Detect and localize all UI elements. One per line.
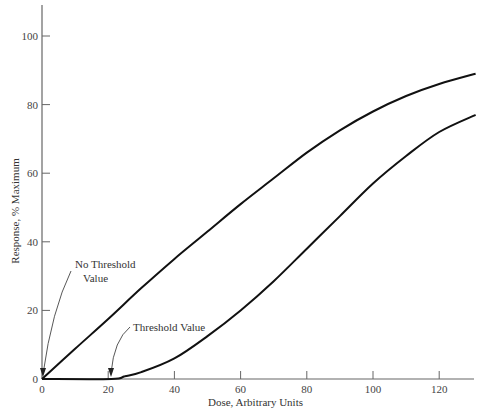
- x-ticks: 020406080100120: [39, 371, 448, 395]
- y-tick-label: 20: [27, 304, 39, 316]
- x-tick-label: 120: [431, 383, 448, 395]
- annotation-arrow-line: [43, 271, 71, 374]
- y-axis-title: Response, % Maximum: [9, 158, 21, 264]
- x-tick-label: 20: [103, 383, 115, 395]
- x-tick-label: 100: [365, 383, 382, 395]
- annotation-no-threshold-line2: Value: [83, 272, 108, 284]
- y-tick-label: 100: [22, 30, 39, 42]
- x-tick-label: 0: [39, 383, 45, 395]
- y-tick-label: 60: [27, 167, 39, 179]
- y-ticks: 020406080100: [22, 30, 51, 385]
- x-tick-label: 40: [169, 383, 181, 395]
- threshold-curve: [42, 115, 476, 379]
- dose-response-chart: 020406080100 020406080100120 No Threshol…: [0, 0, 484, 419]
- y-tick-label: 40: [27, 236, 39, 248]
- y-tick-label: 0: [33, 373, 39, 385]
- y-tick-label: 80: [27, 99, 39, 111]
- annotation-threshold-label: Threshold Value: [133, 321, 205, 333]
- x-axis-title: Dose, Arbitrary Units: [208, 396, 303, 408]
- annotation-arrow-line: [111, 327, 130, 373]
- arrowhead-icon: [108, 368, 114, 377]
- x-tick-label: 60: [235, 383, 247, 395]
- annotation-no-threshold-line1: No Threshold: [75, 258, 136, 270]
- x-tick-label: 80: [301, 383, 313, 395]
- no-threshold-curve: [42, 74, 476, 379]
- annotation-no-threshold: No Threshold Value: [40, 258, 136, 377]
